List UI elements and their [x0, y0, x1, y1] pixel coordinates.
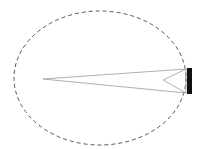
diagram-canvas — [0, 0, 208, 149]
dashed-boundary-ellipse — [14, 11, 186, 145]
inner-wedge — [163, 69, 186, 93]
diagram-svg — [0, 0, 208, 149]
source-block — [187, 68, 192, 94]
